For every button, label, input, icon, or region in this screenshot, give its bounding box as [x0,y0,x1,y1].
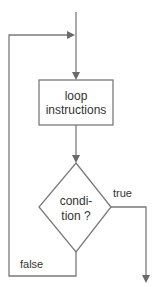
process-label: loop instructions [39,89,113,117]
decision-label: condi- tion ? [46,194,106,224]
decision-label-line1: condi- [46,194,106,209]
false-edge-label: false [20,258,43,271]
flowchart-canvas [0,0,162,287]
process-label-line2: instructions [39,103,113,117]
process-label-line1: loop [39,89,113,103]
true-edge-label: true [113,187,132,200]
true-exit-arrow [111,207,146,281]
decision-label-line2: tion ? [46,209,106,224]
